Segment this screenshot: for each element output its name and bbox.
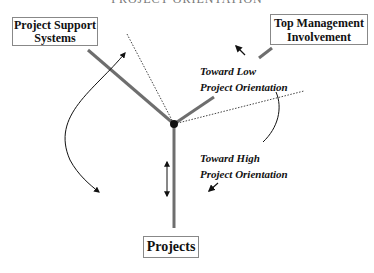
box-label-line: Systems bbox=[13, 32, 97, 45]
support-axis bbox=[88, 50, 174, 124]
label-line: Project Orientation bbox=[200, 79, 288, 95]
toward-high-label: Toward High Project Orientation bbox=[200, 150, 288, 182]
arrow-toward-low bbox=[236, 46, 245, 55]
label-line: Toward High bbox=[200, 150, 288, 166]
top-management-axis bbox=[174, 97, 214, 124]
projects-box: Projects bbox=[143, 236, 199, 258]
origin-dot bbox=[170, 120, 178, 128]
label-line: Toward Low bbox=[200, 63, 288, 79]
label-line: Project Orientation bbox=[200, 166, 288, 182]
toward-low-label: Toward Low Project Orientation bbox=[200, 63, 288, 95]
top-management-involvement-box: Top Management Involvement bbox=[270, 14, 368, 45]
project-support-systems-box: Project Support Systems bbox=[12, 17, 98, 46]
dotted-line-right bbox=[174, 91, 304, 124]
box-label-line: Top Management bbox=[271, 16, 367, 30]
arrow-toward-high bbox=[209, 183, 218, 191]
dotted-line-upper bbox=[127, 34, 174, 124]
top-management-axis-stub bbox=[259, 48, 272, 58]
box-label-line: Involvement bbox=[271, 30, 367, 44]
